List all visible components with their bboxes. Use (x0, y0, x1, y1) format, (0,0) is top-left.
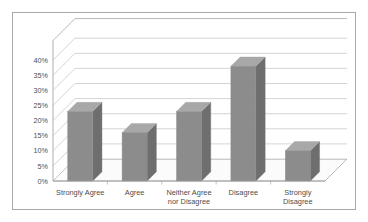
category-axis-label: nor Disagree (168, 197, 210, 206)
category-axis-label: Neither Agree (166, 188, 211, 197)
category-axis-label: Agree (125, 188, 145, 197)
chart-plot-frame: 0%5%10%15%20%25%30%35%40%Strongly AgreeA… (12, 12, 356, 210)
category-axis-label: Strongly Agree (56, 188, 104, 197)
bar-column (68, 102, 102, 181)
bar-side-face (93, 102, 102, 181)
bar-column (285, 142, 319, 181)
category-axis-label: Disagree (229, 188, 259, 197)
chart-back-wall (75, 19, 347, 159)
y-axis-tick-label: 0% (38, 177, 49, 186)
y-axis-tick-label: 15% (34, 131, 49, 140)
bar-front-face (122, 133, 147, 181)
category-axis-label: Disagree (283, 197, 313, 206)
bar-column (231, 57, 265, 181)
y-axis-tick-label: 40% (34, 56, 49, 65)
bar-front-face (285, 151, 310, 181)
bar-column (122, 123, 156, 181)
bar-side-face (202, 102, 211, 181)
chart-figure: 0%5%10%15%20%25%30%35%40%Strongly AgreeA… (0, 0, 368, 222)
y-axis-tick-label: 5% (38, 162, 49, 171)
bar-side-face (147, 123, 156, 181)
bar-side-face (256, 57, 265, 181)
y-axis-tick-label: 20% (34, 116, 49, 125)
bar-front-face (231, 66, 256, 181)
y-axis-tick-label: 25% (34, 101, 49, 110)
bar-front-face (68, 112, 93, 181)
bar-front-face (176, 112, 201, 181)
bar-column (176, 102, 210, 181)
y-axis-tick-label: 30% (34, 86, 49, 95)
category-axis-label: Strongly (284, 188, 311, 197)
y-axis-tick-label: 10% (34, 146, 49, 155)
y-axis-tick-label: 35% (34, 71, 49, 80)
bar-chart-3d: 0%5%10%15%20%25%30%35%40%Strongly AgreeA… (13, 13, 357, 211)
